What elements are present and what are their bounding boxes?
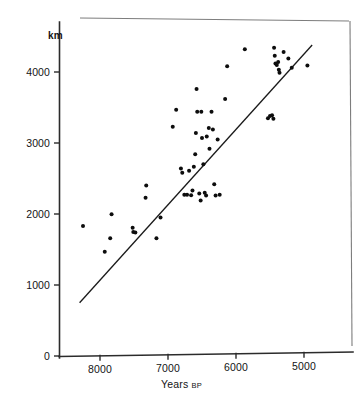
frame-top-line bbox=[80, 18, 349, 21]
data-point bbox=[193, 152, 197, 156]
scatter-plot-figure: km 01000200030004000 8000700060005000 Ye… bbox=[0, 0, 363, 415]
data-point bbox=[197, 191, 201, 195]
x-tick-label-5000: 5000 bbox=[274, 361, 334, 372]
data-point bbox=[81, 224, 85, 228]
data-point bbox=[276, 60, 280, 64]
data-point bbox=[218, 193, 222, 197]
data-point bbox=[171, 125, 175, 129]
y-tick-label-2000: 2000 bbox=[0, 209, 50, 220]
y-tick-label-3000: 3000 bbox=[0, 138, 50, 149]
data-point bbox=[286, 57, 290, 61]
data-point bbox=[187, 169, 191, 173]
data-point bbox=[200, 136, 204, 140]
data-point bbox=[225, 64, 229, 68]
data-point bbox=[270, 113, 274, 117]
data-point bbox=[180, 171, 184, 175]
plot-canvas bbox=[0, 0, 363, 415]
data-point bbox=[204, 194, 208, 198]
data-point bbox=[199, 110, 203, 114]
data-point bbox=[272, 46, 276, 50]
data-point bbox=[278, 71, 282, 75]
data-point bbox=[207, 147, 211, 151]
data-point bbox=[223, 97, 227, 101]
data-point bbox=[210, 110, 214, 114]
x-tick-label-6000: 6000 bbox=[206, 362, 266, 373]
data-point bbox=[214, 194, 218, 198]
x-axis-title-main: Years bbox=[161, 378, 188, 390]
regression-trend-line bbox=[80, 45, 313, 303]
data-point bbox=[243, 47, 247, 51]
data-point bbox=[205, 135, 209, 139]
data-point bbox=[189, 193, 193, 197]
data-point bbox=[174, 108, 178, 112]
data-point bbox=[133, 230, 137, 234]
data-point bbox=[103, 250, 107, 254]
data-point bbox=[194, 131, 198, 135]
data-point bbox=[195, 110, 199, 114]
data-point bbox=[190, 189, 194, 193]
data-point bbox=[154, 236, 158, 240]
data-point bbox=[199, 199, 203, 203]
data-point bbox=[290, 66, 294, 70]
data-point bbox=[108, 236, 112, 240]
y-axis-unit-label: km bbox=[48, 31, 63, 41]
frame-right-line bbox=[350, 21, 352, 346]
data-point bbox=[144, 196, 148, 200]
data-point bbox=[271, 117, 275, 121]
data-point bbox=[211, 128, 215, 132]
data-point bbox=[282, 50, 286, 54]
data-point bbox=[185, 193, 189, 197]
data-point bbox=[216, 137, 220, 141]
data-point bbox=[192, 165, 196, 169]
data-point bbox=[195, 87, 199, 91]
data-point bbox=[179, 167, 183, 171]
data-point bbox=[305, 64, 309, 68]
x-axis-title-suffix: BP bbox=[191, 381, 202, 390]
x-axis-title: Years BP bbox=[0, 379, 363, 390]
y-tick-label-1000: 1000 bbox=[0, 280, 50, 291]
data-point bbox=[273, 54, 277, 58]
data-point bbox=[159, 216, 163, 220]
y-tick-label-0: 0 bbox=[0, 351, 50, 362]
x-tick-label-7000: 7000 bbox=[138, 363, 198, 374]
data-point bbox=[212, 182, 216, 186]
data-point bbox=[131, 226, 135, 230]
x-axis-line bbox=[59, 352, 353, 357]
y-tick-label-4000: 4000 bbox=[0, 67, 50, 78]
data-point bbox=[144, 184, 148, 188]
x-tick-label-8000: 8000 bbox=[70, 364, 130, 375]
data-point bbox=[207, 126, 211, 130]
data-points-group bbox=[81, 46, 309, 254]
data-point bbox=[110, 212, 114, 216]
data-point bbox=[201, 162, 205, 166]
